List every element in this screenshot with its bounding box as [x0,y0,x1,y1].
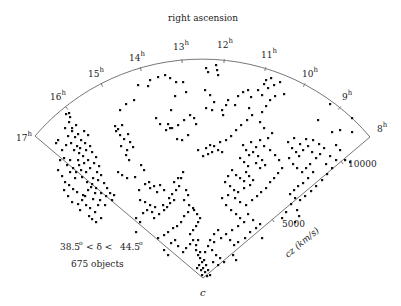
galaxy-point [125,154,127,156]
galaxy-point [192,239,194,241]
galaxy-point [301,171,303,173]
galaxy-point [85,204,87,206]
galaxy-point [189,243,191,245]
galaxy-point [231,169,233,171]
galaxy-point [247,89,249,91]
tick-label-10000: 10000 [348,159,377,169]
ra-hour-label: 16h [50,89,66,102]
galaxy-point [302,149,304,151]
galaxy-point [248,107,250,109]
galaxy-point [229,185,231,187]
galaxy-point [225,139,227,141]
galaxy-point [81,176,83,178]
galaxy-point [185,91,187,93]
galaxy-point [126,177,128,179]
galaxy-point [132,146,134,148]
galaxy-point [201,261,203,263]
galaxy-point [325,163,327,165]
galaxy-point [239,177,241,179]
galaxy-point [195,244,197,246]
galaxy-point [222,114,224,116]
galaxy-point [216,69,218,71]
galaxy-point [135,217,137,219]
galaxy-point [205,264,207,266]
galaxy-point [211,151,213,153]
galaxy-point [72,188,74,190]
decl-upper-deg: o [139,239,143,246]
galaxy-point [105,195,107,197]
galaxy-point [98,165,100,167]
galaxy-point [94,192,96,194]
cz-tick-marks [272,161,343,222]
galaxy-point [144,183,146,185]
galaxy-point [89,167,91,169]
galaxy-point [117,171,119,173]
galaxy-point [173,199,175,201]
galaxy-point [263,127,265,129]
tick-10000 [341,161,343,164]
galaxy-point [78,164,80,166]
galaxy-point [225,204,227,206]
galaxy-point [202,267,204,269]
galaxy-point [230,209,232,211]
galaxy-point [315,157,317,159]
galaxy-point [255,227,257,229]
galaxy-point [151,211,153,213]
galaxy-point [271,132,273,134]
galaxy-point [156,191,158,193]
galaxy-point [89,145,91,147]
galaxy-point [142,212,144,214]
galaxy-point [221,109,223,111]
galaxy-point [335,159,337,161]
galaxy-point [104,204,106,206]
galaxy-point [68,184,70,186]
galaxy-point [305,138,307,140]
galaxy-point [170,109,172,111]
galaxy-point [251,114,253,116]
galaxy-point [193,117,195,119]
galaxy-point [153,185,155,187]
galaxy-point [94,211,96,213]
galaxy-point [185,247,187,249]
galaxy-point [196,213,198,215]
galaxy-point [257,89,259,91]
galaxy-point [235,129,237,131]
galaxy-point [207,71,209,73]
galaxy-point [121,174,123,176]
galaxy-point [125,103,127,105]
galaxy-point [304,195,306,197]
galaxy-point [83,130,85,132]
galaxy-point [319,153,321,155]
galaxy-point [230,135,232,137]
galaxy-point [215,64,217,66]
galaxy-point [67,195,69,197]
galaxy-point [162,204,164,206]
tick-label-5000: 5000 [282,219,305,229]
galaxy-point [180,221,182,223]
galaxy-point [120,145,122,147]
galaxy-point [209,144,211,146]
galaxy-point [249,184,251,186]
ra-hour-label: 13h [173,39,189,52]
galaxy-point [187,194,189,196]
galaxy-point [233,244,235,246]
galaxy-point [170,242,172,244]
galaxy-point [277,172,279,174]
galaxy-point [213,101,215,103]
galaxy-point [246,119,248,121]
galaxy-point [217,264,219,266]
galaxy-point [263,83,265,85]
galaxy-point [281,167,283,169]
galaxy-point [217,229,219,231]
galaxy-point [251,199,253,201]
galaxy-point [174,239,176,241]
galaxy-point [87,134,89,136]
galaxy-point [159,184,161,186]
galaxy-point [143,169,145,171]
galaxy-point [95,221,97,223]
galaxy-point [294,197,296,199]
galaxy-point [312,171,314,173]
galaxy-point [263,145,265,147]
galaxy-point [252,219,254,221]
galaxy-point [87,189,89,191]
